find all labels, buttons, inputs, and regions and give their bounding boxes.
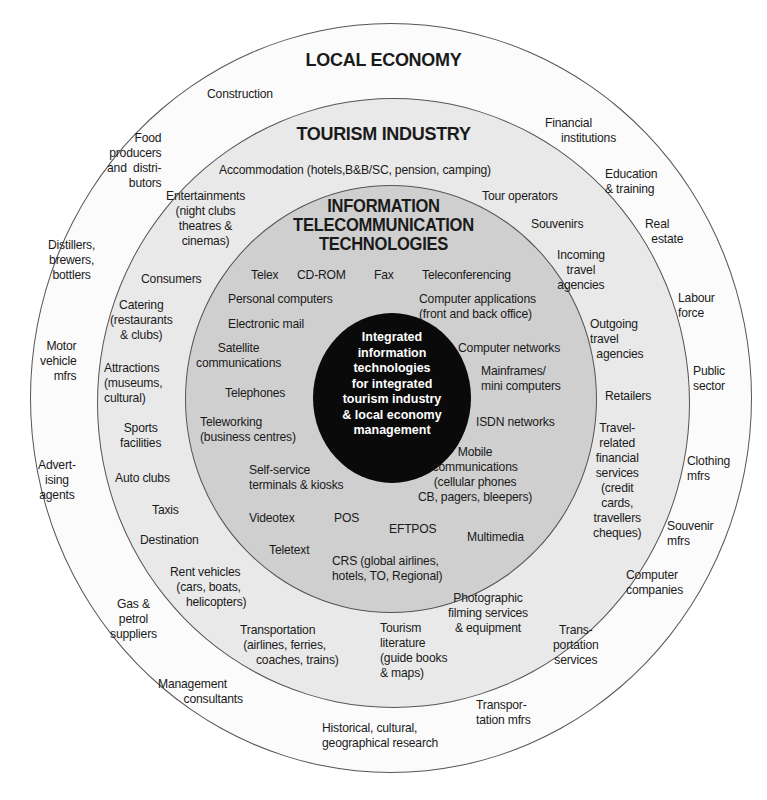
core-text: Integrated information technologies for … — [313, 330, 471, 439]
local-item-construction: Construction — [207, 86, 273, 101]
it-item-teletext: Teletext — [269, 542, 309, 557]
it-item-electronic-mail: Electronic mail — [228, 316, 304, 331]
tourism-item-outgoing-agencies: Outgoing travel agencies — [590, 316, 643, 361]
it-item-mainframes: Mainframes/ mini computers — [481, 363, 561, 393]
tourism-item-travel-financial: Travel- related financial services (cred… — [593, 420, 641, 540]
local-economy-title: LOCAL ECONOMY — [0, 50, 767, 71]
it-item-computer-applications: Computer applications (front and back of… — [419, 291, 536, 321]
tourism-item-accommodation: Accommodation (hotels,B&B/SC, pension, c… — [219, 162, 491, 177]
tourism-item-catering: Catering (restaurants & clubs) — [110, 297, 173, 342]
it-item-personal-computers: Personal computers — [228, 291, 333, 306]
tourism-item-auto-clubs: Auto clubs — [115, 470, 170, 485]
tourism-item-incoming-agencies: Incoming travel agencies — [557, 247, 605, 292]
it-title: INFORMATION TELECOMMUNICATION TECHNOLOGI… — [31, 197, 737, 254]
it-item-teleworking: Teleworking (business centres) — [200, 414, 296, 444]
tourism-item-taxis: Taxis — [152, 502, 179, 517]
it-item-crs: CRS (global airlines, hotels, TO, Region… — [332, 553, 442, 583]
it-item-eftpos: EFTPOS — [389, 521, 436, 536]
local-item-real-estate: Real estate — [645, 216, 683, 246]
tourism-item-destination: Destination — [140, 532, 199, 547]
it-item-computer-networks: Computer networks — [458, 340, 560, 355]
local-item-gas-petrol: Gas & petrol suppliers — [110, 596, 157, 641]
tourism-item-sports-facilities: Sports facilities — [120, 420, 161, 450]
local-item-souvenir-mfrs: Souvenir mfrs — [667, 518, 713, 548]
local-item-food-producers: Food producers and distri- butors — [107, 130, 161, 190]
tourism-item-tour-operators: Tour operators — [482, 188, 558, 203]
tourism-item-souvenirs: Souvenirs — [531, 216, 583, 231]
tourism-item-transportation: Transportation (airlines, ferries, coach… — [240, 622, 339, 667]
it-item-isdn-networks: ISDN networks — [476, 414, 555, 429]
local-item-advertising: Advert- ising agents — [38, 457, 76, 502]
it-item-videotex: Videotex — [249, 510, 295, 525]
tourism-item-retailers: Retailers — [605, 388, 651, 403]
local-item-distillers: Distillers, brewers, bottlers — [48, 237, 95, 282]
local-item-management-consultants: Management consultants — [158, 676, 243, 706]
local-item-public-sector: Public sector — [693, 363, 725, 393]
local-item-labour-force: Labour force — [678, 290, 715, 320]
tourism-item-rent-vehicles: Rent vehicles (cars, boats, helicopters) — [170, 564, 246, 609]
it-item-pos: POS — [334, 510, 359, 525]
local-item-computer-companies: Computer companies — [626, 567, 683, 597]
local-item-historical-research: Historical, cultural, geographical resea… — [322, 720, 438, 750]
it-item-fax: Fax — [374, 267, 394, 282]
local-item-education-training: Education & training — [605, 166, 657, 196]
local-item-transportation-services: Trans- portation services — [553, 622, 599, 667]
local-item-transportation-mfrs: Transpor- tation mfrs — [476, 697, 531, 727]
local-item-motor-vehicle: Motor vehicle mfrs — [40, 338, 76, 383]
it-item-telex: Telex — [251, 267, 278, 282]
it-item-telephones: Telephones — [225, 385, 285, 400]
it-item-satellite-communications: Satellite communications — [196, 340, 281, 370]
tourism-item-attractions: Attractions (museums, cultural) — [104, 360, 162, 405]
it-item-self-service-terminals: Self-service terminals & kiosks — [249, 462, 343, 492]
local-item-financial-institutions: Financial institutions — [545, 115, 616, 145]
it-item-teleconferencing: Teleconferencing — [422, 267, 511, 282]
tourism-item-tourism-literature: Tourism literature (guide books & maps) — [380, 620, 447, 680]
tourism-item-photographic: Photographic filming services & equipmen… — [448, 590, 528, 635]
local-item-clothing-mfrs: Clothing mfrs — [687, 453, 730, 483]
tourism-item-entertainments: Entertainments (night clubs theatres & c… — [166, 188, 245, 248]
it-item-mobile-communications: Mobile communications (cellular phones C… — [418, 444, 532, 504]
it-item-multimedia: Multimedia — [467, 529, 524, 544]
it-item-cd-rom: CD-ROM — [297, 267, 346, 282]
tourism-item-consumers: Consumers — [141, 271, 201, 286]
